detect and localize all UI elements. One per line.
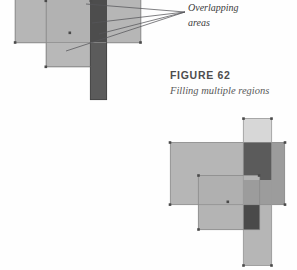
overlapping-areas-annotation: Overlapping areas [188, 1, 288, 30]
annotation-line-1: Overlapping [188, 1, 288, 16]
handle-dot [45, 66, 48, 69]
handle-dot [69, 32, 72, 35]
bottom-overlap-square-band [198, 175, 243, 205]
bottom-overlap-strip-band [243, 142, 272, 180]
top-diagram [14, 0, 142, 100]
handle-dot [197, 228, 200, 231]
handle-dot [284, 203, 287, 206]
handle-dot [90, 0, 93, 2]
handle-dot [227, 201, 230, 204]
bottom-diagram [169, 117, 287, 267]
handle-dot [258, 174, 261, 177]
handle-dot [14, 41, 17, 44]
figure-page: Overlapping areas FIGURE 62 Filling mult… [0, 0, 297, 270]
handle-dot [45, 0, 48, 2]
handle-dot [242, 264, 245, 267]
bottom-overlap-triple-upper [243, 180, 260, 205]
annotation-line-2: areas [188, 16, 288, 31]
handle-dot [242, 117, 245, 120]
figure-number-label: FIGURE 62 [170, 69, 292, 82]
handle-dot [169, 141, 172, 144]
handle-dot [284, 141, 287, 144]
handle-dot [270, 264, 273, 267]
bottom-overlap-strip-square [243, 205, 260, 230]
figure-illustration [0, 0, 297, 270]
bottom-strip-top-segment [243, 118, 272, 143]
handle-dot [270, 117, 273, 120]
handle-dot [197, 174, 200, 177]
top-overlap-band-square [46, 0, 91, 43]
figure-description: Filling multiple regions [170, 84, 292, 98]
handle-dot [169, 203, 172, 206]
figure-caption: FIGURE 62 Filling multiple regions [170, 69, 292, 98]
handle-dot [139, 41, 142, 44]
